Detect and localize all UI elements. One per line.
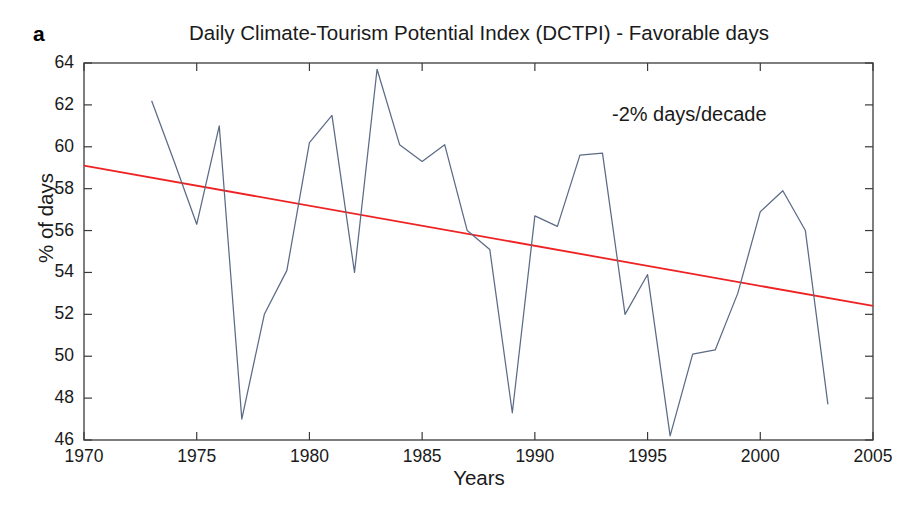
- figure-panel-a: a Daily Climate-Tourism Potential Index …: [0, 0, 923, 512]
- y-tick-label: 48: [28, 387, 74, 408]
- y-tick-label: 62: [28, 94, 74, 115]
- trend-line: [84, 166, 873, 306]
- data-series-line: [152, 69, 828, 436]
- x-tick-label: 1980: [274, 446, 344, 467]
- x-tick-label: 1990: [500, 446, 570, 467]
- axis-frame: [84, 63, 873, 440]
- x-tick-label: 2000: [725, 446, 795, 467]
- x-tick-label: 1970: [49, 446, 119, 467]
- x-tick-label: 1985: [387, 446, 457, 467]
- x-tick-label: 1995: [613, 446, 683, 467]
- x-tick-label: 1975: [162, 446, 232, 467]
- y-tick-label: 52: [28, 303, 74, 324]
- y-tick-label: 50: [28, 345, 74, 366]
- x-tick-label: 2005: [838, 446, 908, 467]
- plot-area: [0, 0, 923, 512]
- y-tick-marks: [84, 63, 873, 440]
- y-tick-label: 54: [28, 261, 74, 282]
- y-tick-label: 58: [28, 178, 74, 199]
- y-tick-label: 56: [28, 220, 74, 241]
- data-series-group: [84, 69, 873, 436]
- x-tick-marks: [84, 63, 873, 440]
- y-tick-label: 64: [28, 52, 74, 73]
- y-tick-label: 60: [28, 136, 74, 157]
